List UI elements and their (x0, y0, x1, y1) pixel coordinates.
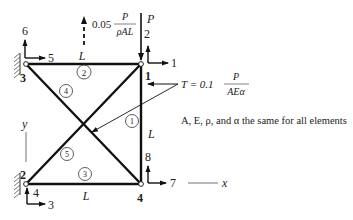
body-force-denominator: ρAL (116, 26, 134, 37)
body-force-numerator: P (121, 11, 128, 22)
dof-6: 6 (22, 24, 28, 38)
dof-4: 4 (33, 186, 39, 200)
temperature-denominator: AEα (226, 86, 245, 97)
node-3-pin (24, 62, 29, 67)
body-force-coef: 0.05 (92, 18, 112, 30)
truss-diagram: 3 1 2 4 2 4 1 5 3 L L L 6 5 2 1 4 3 8 7 (0, 0, 353, 220)
node-label-3: 3 (20, 71, 26, 85)
dof-3: 3 (48, 198, 54, 212)
dof-5: 5 (48, 51, 54, 65)
node-label-2: 2 (20, 168, 26, 182)
dof-1: 1 (171, 56, 177, 70)
length-label-right: L (147, 127, 155, 141)
node-1-pin (139, 62, 144, 67)
element-label-5: 5 (65, 150, 69, 159)
element-label-2: 2 (82, 68, 87, 78)
dof-8: 8 (145, 150, 151, 164)
dof-7: 7 (170, 176, 176, 190)
node-label-4: 4 (137, 191, 143, 205)
temperature-prefix: T = 0.1 (181, 78, 214, 90)
point-load-label: P (146, 12, 155, 26)
dof-2: 2 (144, 27, 150, 41)
material-note: A, E, ρ, and α the same for all elements (181, 115, 347, 126)
element-label-3: 3 (83, 170, 87, 179)
length-label-top: L (78, 49, 86, 63)
x-axis-label: x (221, 176, 228, 190)
node-label-1: 1 (145, 69, 151, 83)
node-4-pin (139, 182, 144, 187)
y-axis-label: y (21, 117, 28, 131)
element-label-4: 4 (64, 87, 68, 96)
element-label-1: 1 (130, 117, 134, 126)
temperature-numerator: P (232, 71, 239, 82)
length-label-bottom: L (82, 189, 90, 203)
node-2-pin (24, 182, 29, 187)
